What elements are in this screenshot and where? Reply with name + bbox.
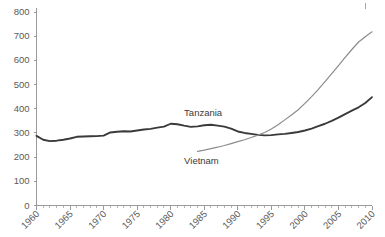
series-label-tanzania: Tanzania <box>184 107 223 118</box>
x-axis-group: 1960196519701975198019851990199520002005… <box>19 206 377 231</box>
series-line-tanzania <box>37 97 373 141</box>
x-tick-label: 2000 <box>287 208 310 231</box>
y-tick-label: 200 <box>14 151 30 162</box>
y-tick-label: 0 <box>24 200 29 211</box>
x-tick-label: 2010 <box>354 208 377 231</box>
series-label-vietnam: Vietnam <box>184 155 219 166</box>
y-tick-labels: 0100200300400500600700800 <box>14 6 30 211</box>
y-tick-label: 100 <box>14 175 30 186</box>
x-tick-label: 1975 <box>119 208 142 231</box>
data-series-group <box>37 32 373 151</box>
y-tick-label: 800 <box>14 6 30 17</box>
x-tick-label: 1970 <box>86 208 109 231</box>
y-tick-label: 300 <box>14 127 30 138</box>
chart-svg: 0100200300400500600700800 19601965197019… <box>0 0 385 237</box>
y-tick-label: 500 <box>14 79 30 90</box>
series-label-group: TanzaniaVietnam <box>184 107 223 166</box>
y-tick-label: 400 <box>14 103 30 114</box>
y-tick-label: 600 <box>14 54 30 65</box>
y-axis-group: 0100200300400500600700800 <box>14 6 37 211</box>
line-chart: 0100200300400500600700800 19601965197019… <box>0 0 385 237</box>
x-tick-label: 1995 <box>254 208 277 231</box>
x-tick-label: 1985 <box>186 208 209 231</box>
x-tick-labels: 1960196519701975198019851990199520002005… <box>19 208 377 231</box>
x-tick-label: 2005 <box>321 208 344 231</box>
y-tick-label: 700 <box>14 30 30 41</box>
x-tick-label: 1960 <box>19 208 42 231</box>
x-tick-marks <box>37 206 373 210</box>
x-tick-label: 1980 <box>153 208 176 231</box>
x-tick-label: 1965 <box>52 208 75 231</box>
x-tick-label: 1990 <box>220 208 243 231</box>
